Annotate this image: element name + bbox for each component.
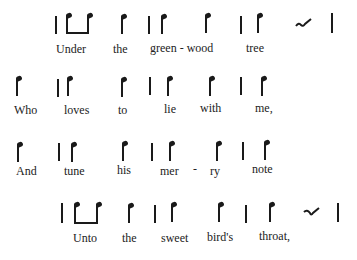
note-icon: [161, 14, 169, 34]
lyric-word: throat,: [259, 229, 290, 244]
lyric-word: his: [117, 163, 131, 178]
note-icon: [16, 76, 24, 96]
lyric-word: ry: [210, 164, 220, 179]
note-icon: [216, 141, 224, 161]
note-icon: [171, 202, 179, 222]
note-icon: [218, 202, 226, 222]
note-icon: [121, 77, 129, 97]
lyric-word: to: [118, 103, 127, 118]
beam-icon: [66, 32, 89, 34]
lyric-word: Under: [56, 42, 86, 57]
bar-line-icon: [61, 203, 63, 223]
lyric-word: Who: [14, 103, 37, 118]
lyric-word: sweet: [161, 231, 188, 246]
bar-line-icon: [151, 143, 153, 161]
lyric-word: with: [200, 101, 221, 116]
bar-line-icon: [245, 205, 247, 223]
note-icon: [67, 76, 75, 96]
lyric-word: tree: [246, 41, 264, 56]
note-icon: [261, 76, 269, 96]
note-icon: [167, 76, 175, 96]
lyric-word: lie: [164, 102, 176, 117]
bar-line-icon: [154, 205, 156, 223]
bar-line-icon: [240, 16, 242, 34]
note-icon: [122, 141, 130, 161]
bar-line-icon: [148, 16, 150, 34]
note-icon: [17, 142, 25, 162]
lyric-word: mer: [160, 164, 179, 179]
lyric-word: -: [193, 162, 197, 177]
bar-line-icon: [149, 77, 151, 95]
lyric-word: note: [252, 162, 273, 177]
rest-icon: [303, 207, 321, 217]
bar-line-icon: [58, 143, 60, 161]
note-icon: [257, 13, 265, 33]
note-icon: [66, 13, 74, 33]
lyric-word: green - wood: [150, 41, 213, 56]
note-icon: [96, 202, 104, 222]
lyric-word: the: [122, 231, 137, 246]
lyric-word: And: [16, 164, 37, 179]
bar-line-icon: [242, 142, 244, 160]
song-rhythm-page: Under the green - wood tree Who loves to…: [0, 0, 357, 260]
bar-line-icon: [337, 203, 339, 222]
lyric-word: the: [113, 42, 128, 57]
note-icon: [264, 140, 272, 160]
lyric-word: bird's: [207, 230, 233, 245]
lyric-word: loves: [64, 103, 89, 118]
note-icon: [205, 13, 213, 33]
note-icon: [74, 202, 82, 222]
note-icon: [87, 13, 95, 33]
note-icon: [128, 203, 136, 223]
lyric-word: Unto: [73, 231, 97, 246]
rest-icon: [295, 18, 313, 28]
note-icon: [169, 141, 177, 161]
note-icon: [121, 14, 129, 34]
note-icon: [269, 202, 277, 222]
lyric-word: tune: [64, 164, 85, 179]
beam-icon: [74, 222, 98, 224]
bar-line-icon: [331, 13, 333, 33]
note-icon: [209, 76, 217, 96]
bar-line-icon: [57, 79, 59, 97]
bar-line-icon: [55, 16, 57, 34]
note-icon: [71, 142, 79, 162]
bar-line-icon: [240, 77, 242, 95]
lyric-word: me,: [255, 101, 273, 116]
